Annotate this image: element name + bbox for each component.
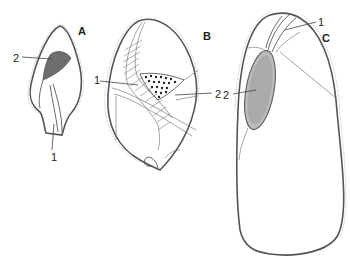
panel-b-callout-1: 1 bbox=[94, 74, 100, 86]
panel-c-callout-2: 2 bbox=[223, 89, 229, 101]
figure-canvas: A 2 1 bbox=[0, 0, 350, 267]
figure: A 2 1 bbox=[0, 0, 350, 267]
panel-b-callout-2: 2 bbox=[215, 88, 221, 100]
panel-a-callout-1: 1 bbox=[51, 151, 57, 163]
panel-c-label: C bbox=[322, 32, 330, 44]
panel-b bbox=[100, 17, 212, 170]
panel-b-label: B bbox=[203, 30, 211, 42]
panel-a-label: A bbox=[78, 25, 86, 37]
panel-c-callout-1: 1 bbox=[318, 16, 324, 28]
panel-c bbox=[233, 12, 346, 255]
panel-a-callout-2: 2 bbox=[13, 52, 19, 64]
panel-a bbox=[22, 24, 83, 150]
panel-c-outline bbox=[237, 13, 344, 255]
